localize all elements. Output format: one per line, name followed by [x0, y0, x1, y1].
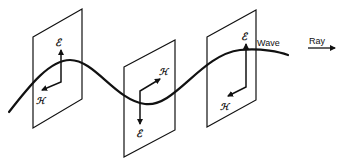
plane-3: ℰ ℋ — [207, 10, 256, 127]
h-field-arrow-3 — [228, 86, 246, 96]
wave-label: Wave — [257, 38, 280, 48]
h-field-arrow-2 — [140, 79, 160, 92]
h-field-arrow-1 — [42, 80, 61, 90]
ray-indicator: Ray — [308, 36, 335, 48]
e-field-label-1: ℰ — [55, 37, 63, 48]
ray-label: Ray — [309, 36, 326, 46]
e-field-label-3: ℰ — [241, 31, 249, 42]
em-wave-diagram: ℰ ℋ ℰ ℋ ℰ ℋ Wave Ray — [0, 0, 343, 164]
h-field-label-1: ℋ — [36, 96, 47, 106]
h-field-label-2: ℋ — [159, 67, 170, 77]
h-field-label-3: ℋ — [220, 102, 231, 112]
plane-1: ℰ ℋ — [33, 9, 82, 128]
e-field-label-2: ℰ — [136, 128, 144, 139]
